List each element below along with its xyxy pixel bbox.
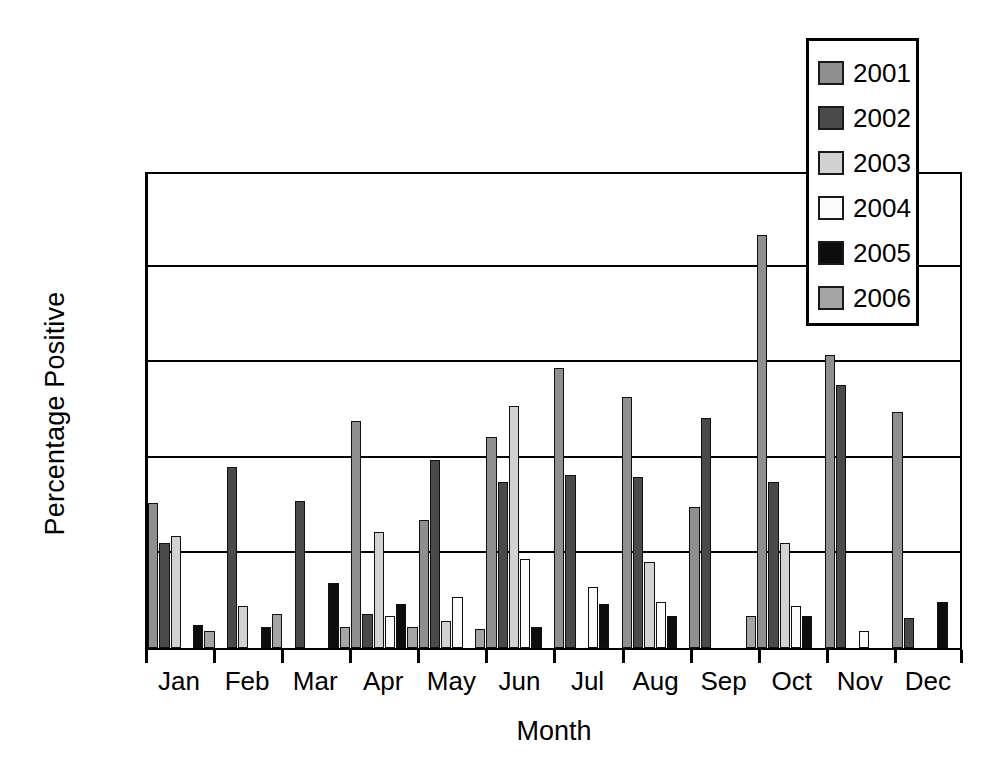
bar[interactable]: [486, 437, 496, 648]
legend-item[interactable]: 2003: [818, 140, 916, 185]
legend-item[interactable]: 2006: [818, 275, 916, 320]
bar[interactable]: [701, 418, 711, 648]
bar[interactable]: [689, 507, 699, 648]
bar[interactable]: [565, 475, 575, 648]
bar-slot: [441, 172, 452, 648]
bar-slot: [746, 172, 757, 648]
bar-slot: [227, 172, 238, 648]
bar[interactable]: [633, 477, 643, 648]
bar[interactable]: [351, 421, 361, 648]
bar-slot: [554, 172, 565, 648]
bar-slot: [204, 172, 215, 648]
bar[interactable]: [385, 616, 395, 648]
bar[interactable]: [204, 631, 214, 648]
bar[interactable]: [667, 616, 677, 648]
bar[interactable]: [531, 627, 541, 648]
bar-slot: [937, 172, 948, 648]
bar-slot: [351, 172, 362, 648]
bar-slot: [464, 172, 475, 648]
bar[interactable]: [588, 587, 598, 648]
bar[interactable]: [430, 460, 440, 648]
bar[interactable]: [441, 621, 451, 648]
bar[interactable]: [520, 559, 530, 648]
bar-slot: [509, 172, 520, 648]
legend-swatch: [818, 286, 844, 310]
bar[interactable]: [859, 631, 869, 648]
bar[interactable]: [171, 536, 181, 648]
bar[interactable]: [746, 616, 756, 648]
bar[interactable]: [452, 597, 462, 648]
bar[interactable]: [272, 614, 282, 648]
bar[interactable]: [768, 482, 778, 648]
bar[interactable]: [644, 562, 654, 648]
legend-item[interactable]: 2004: [818, 185, 916, 230]
x-tick-label: Jun: [485, 666, 553, 697]
bar[interactable]: [261, 627, 271, 648]
bar-slot: [148, 172, 159, 648]
bar-slot: [768, 172, 779, 648]
bar[interactable]: [193, 625, 203, 648]
bar[interactable]: [407, 627, 417, 648]
bar[interactable]: [825, 355, 835, 648]
legend-label: 2004: [853, 195, 911, 221]
bar[interactable]: [892, 412, 902, 648]
bar[interactable]: [227, 467, 237, 648]
x-tick: [758, 650, 826, 664]
bar-slot: [678, 172, 689, 648]
bar-slot: [949, 172, 960, 648]
bar[interactable]: [599, 604, 609, 648]
bar-slot: [261, 172, 272, 648]
bar[interactable]: [757, 235, 767, 648]
x-tick-label: May: [417, 666, 485, 697]
bar-group: [486, 172, 554, 648]
bar-slot: [419, 172, 430, 648]
bar-slot: [272, 172, 283, 648]
bar-slot: [328, 172, 339, 648]
bar[interactable]: [904, 618, 914, 648]
bar[interactable]: [656, 602, 666, 648]
legend-item[interactable]: 2001: [818, 50, 916, 95]
bar[interactable]: [159, 543, 169, 648]
bar[interactable]: [937, 602, 947, 648]
bar[interactable]: [498, 482, 508, 648]
bar[interactable]: [802, 616, 812, 648]
bar[interactable]: [238, 606, 248, 648]
bar[interactable]: [622, 397, 632, 648]
bar[interactable]: [374, 532, 384, 648]
bar[interactable]: [419, 520, 429, 648]
legend-item[interactable]: 2002: [818, 95, 916, 140]
bar[interactable]: [362, 614, 372, 648]
x-tick: [281, 650, 349, 664]
bar-slot: [193, 172, 204, 648]
bar[interactable]: [791, 606, 801, 648]
x-tick: [485, 650, 553, 664]
bar-slot: [577, 172, 588, 648]
bar-slot: [159, 172, 170, 648]
legend-swatch: [818, 61, 844, 85]
bar-slot: [531, 172, 542, 648]
bar[interactable]: [340, 627, 350, 648]
y-axis-title: Percentage Positive: [40, 204, 71, 624]
bar-slot: [238, 172, 249, 648]
bar-group: [351, 172, 419, 648]
bar[interactable]: [554, 368, 564, 648]
bar-group: [216, 172, 284, 648]
bar[interactable]: [475, 629, 485, 648]
bar[interactable]: [148, 503, 158, 648]
legend-label: 2001: [853, 60, 911, 86]
bar-slot: [216, 172, 227, 648]
bar-slot: [610, 172, 621, 648]
bar[interactable]: [396, 604, 406, 648]
bar[interactable]: [836, 385, 846, 648]
bar-slot: [712, 172, 723, 648]
bar-group: [689, 172, 757, 648]
legend-item[interactable]: 2005: [818, 230, 916, 275]
bar[interactable]: [295, 501, 305, 648]
bar[interactable]: [328, 583, 338, 648]
x-axis-title: Month: [145, 716, 963, 747]
bar[interactable]: [780, 543, 790, 648]
bar-group: [419, 172, 487, 648]
x-axis-tick-labels: JanFebMarAprMayJunJulAugSepOctNovDec: [145, 666, 962, 697]
bar[interactable]: [509, 406, 519, 648]
bar-slot: [486, 172, 497, 648]
